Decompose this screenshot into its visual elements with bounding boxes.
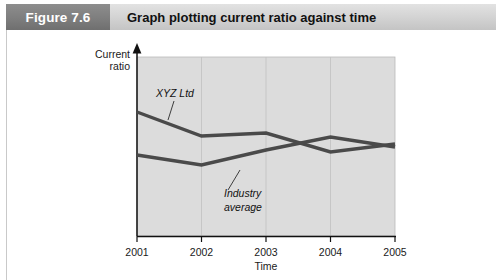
x-tick-label-2003: 2003 (254, 246, 278, 258)
y-axis-arrowhead (133, 43, 142, 54)
x-tick-label-2002: 2002 (190, 246, 214, 258)
line-chart: Current ratio 2001 2002 2003 2004 2005 T… (0, 30, 502, 280)
x-axis (137, 237, 396, 243)
figure-number-label: Figure 7.6 (26, 10, 91, 25)
x-axis-title: Time (255, 260, 278, 272)
figure-container: Figure 7.6 Graph plotting current ratio … (0, 0, 502, 280)
series-label-industry-average-line1: Industry (224, 187, 262, 199)
figure-title: Graph plotting current ratio against tim… (110, 4, 496, 30)
chart-area: Current ratio 2001 2002 2003 2004 2005 T… (0, 30, 502, 280)
figure-header-bar: Figure 7.6 Graph plotting current ratio … (6, 4, 496, 30)
series-label-xyz-ltd: XYZ Ltd (155, 87, 195, 99)
x-tick-label-2005: 2005 (383, 246, 407, 258)
x-tick-label-2004: 2004 (319, 246, 343, 258)
y-axis-title-line2: ratio (110, 60, 131, 72)
series-label-industry-average-line2: average (224, 201, 262, 213)
figure-number-box: Figure 7.6 (6, 4, 110, 30)
y-axis-title-line1: Current (95, 48, 130, 60)
x-tick-label-2001: 2001 (125, 246, 149, 258)
